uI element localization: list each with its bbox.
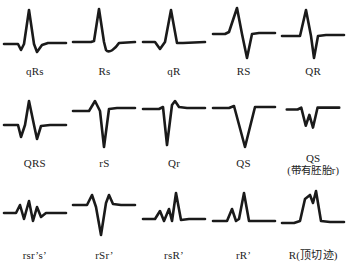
waveform-label-QS: QS [236, 157, 250, 170]
ecg-trace-path [73, 195, 135, 235]
waveform-cell-QR: QR [278, 0, 348, 87]
ecg-trace-path [143, 10, 205, 49]
ecg-trace-path [282, 10, 344, 58]
ecg-trace-path [287, 108, 339, 128]
waveform-cell-qR: qR [139, 0, 209, 87]
waveform-cell-Rs: Rs [70, 0, 140, 87]
ecg-waveform-Rs [71, 4, 137, 60]
waveform-cell-rsR-prime: rsR’ [139, 177, 209, 262]
waveform-cell-QS-embryonic-r: QS (带有胚胎r) [278, 87, 348, 177]
waveform-cell-rS: rS [70, 87, 140, 177]
ecg-trace-path [213, 193, 275, 221]
ecg-waveform-qRs [2, 4, 68, 60]
waveform-label-R-notched: R(顶切迹) [289, 249, 338, 262]
ecg-trace-path [4, 101, 66, 139]
waveform-label-qR: qR [167, 65, 180, 78]
ecg-waveform-rS [71, 95, 137, 151]
waveform-label-rsR-prime: rsR’ [164, 249, 184, 262]
waveform-sublabel-QS-embryonic: (带有胚胎r) [287, 165, 339, 177]
ecg-trace-path [4, 10, 66, 52]
waveform-cell-RS: RS [209, 0, 279, 87]
waveform-label-qRs: qRs [26, 65, 44, 78]
waveform-label-QRS: QRS [24, 157, 46, 170]
waveform-cell-rsrs-prime: rsr’s’ [0, 177, 70, 262]
ecg-trace-path [213, 8, 275, 58]
waveform-cell-qrs-small: qRs [0, 0, 70, 87]
ecg-waveform-QS-embryonic-r [280, 95, 346, 146]
waveform-label-Qr: Qr [168, 157, 180, 170]
waveform-label-rsr-s-prime: rsr’s’ [23, 249, 47, 262]
ecg-trace-path [143, 101, 205, 145]
waveform-cell-rSr-prime: rSr’ [70, 177, 140, 262]
ecg-waveform-rsr-s-prime [2, 187, 68, 243]
waveform-cell-Qr: Qr [139, 87, 209, 177]
waveform-label-QR: QR [305, 65, 321, 78]
waveform-grid: qRs Rs qR RS QR [0, 0, 348, 262]
ecg-waveform-QR [280, 4, 346, 60]
ecg-waveform-qR [141, 4, 207, 60]
waveform-label-rR-prime: rR’ [236, 249, 251, 262]
ecg-trace-path [143, 193, 205, 221]
ecg-waveform-QRS [2, 95, 68, 151]
ecg-trace-path [213, 106, 275, 147]
ecg-qrs-morphology-figure: qRs Rs qR RS QR [0, 0, 348, 262]
waveform-label-QS-embryonic: QS [306, 152, 320, 165]
waveform-cell-R-notched: R(顶切迹) [278, 177, 348, 262]
waveform-label-rS: rS [99, 157, 109, 170]
waveform-label-rSr-prime: rSr’ [95, 249, 113, 262]
ecg-waveform-Qr [141, 95, 207, 151]
waveform-cell-QRS: QRS [0, 87, 70, 177]
waveform-cell-QS: QS [209, 87, 279, 177]
ecg-trace-path [73, 9, 135, 51]
ecg-waveform-QS [211, 95, 277, 151]
waveform-label-Rs: Rs [98, 65, 110, 78]
ecg-trace-path [4, 201, 66, 221]
ecg-trace-path [73, 101, 135, 147]
waveform-cell-rR-prime: rR’ [209, 177, 279, 262]
ecg-waveform-R-notched [280, 187, 346, 243]
ecg-waveform-rR-prime [211, 187, 277, 243]
ecg-trace-path [282, 191, 344, 223]
ecg-waveform-rsR-prime [141, 187, 207, 243]
ecg-waveform-rSr-prime [71, 187, 137, 243]
ecg-waveform-RS [211, 4, 277, 60]
waveform-label-RS: RS [237, 65, 251, 78]
